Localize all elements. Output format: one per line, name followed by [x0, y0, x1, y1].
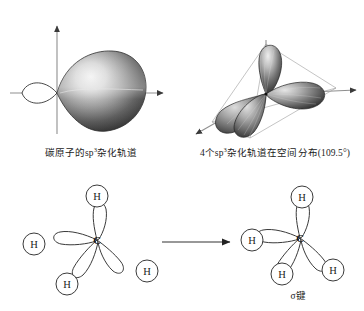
caption-single-prefix: 碳原子的sp: [45, 148, 94, 158]
chemistry-figure: 碳原子的sp3杂化轨道: [0, 0, 364, 311]
hydrogen-right: H: [136, 260, 158, 282]
carbon-label: C: [296, 233, 304, 244]
caption-tetra-count: 4个sp: [200, 148, 224, 158]
hydrogen-top: H: [291, 186, 313, 208]
hydrogen-bottom: H: [56, 273, 78, 295]
single-sp3-orbital-diagram: [0, 4, 182, 146]
hydrogen-label: H: [329, 265, 337, 276]
sigma-bond-label: σ键: [232, 288, 364, 302]
hydrogen-right: H: [322, 259, 344, 281]
lobe-up: [259, 45, 282, 94]
orbital-lobe-lower-right: [97, 240, 123, 273]
hydrogen-label: H: [248, 235, 256, 246]
reaction-arrow-container: [160, 232, 240, 252]
products-diagram: C H H H H: [232, 178, 364, 306]
carbon-label: C: [93, 235, 101, 246]
caption-tetrahedral: 4个sp3杂化轨道在空间分布(109.5°): [186, 148, 364, 159]
carbon-orbitals-unbonded: [54, 203, 124, 278]
caption-single-orbital: 碳原子的sp3杂化轨道: [0, 148, 182, 159]
hydrogen-label: H: [93, 191, 101, 202]
hydrogen-top: H: [86, 185, 108, 207]
hydrogen-left: H: [241, 229, 263, 251]
hydrogen-label: H: [30, 239, 38, 250]
hydrogen-bottom: H: [271, 263, 293, 285]
reactants-diagram: C H H H H: [8, 178, 176, 306]
hydrogen-label: H: [298, 192, 306, 203]
carbon-orbitals-bonded: [257, 201, 327, 276]
caption-single-suffix: 杂化轨道: [97, 148, 137, 158]
hydrogen-label: H: [63, 279, 71, 290]
caption-tetra-suffix: 杂化轨道在空间分布(109.5°): [227, 148, 350, 158]
tetrahedral-sp3-diagram: [186, 38, 364, 146]
small-lobe: [22, 83, 57, 103]
hydrogen-left: H: [23, 233, 45, 255]
hydrogen-label: H: [143, 266, 151, 277]
nucleus-center: [264, 92, 267, 95]
orbital-lobe-left: [54, 231, 97, 244]
hydrogen-label: H: [278, 269, 286, 280]
